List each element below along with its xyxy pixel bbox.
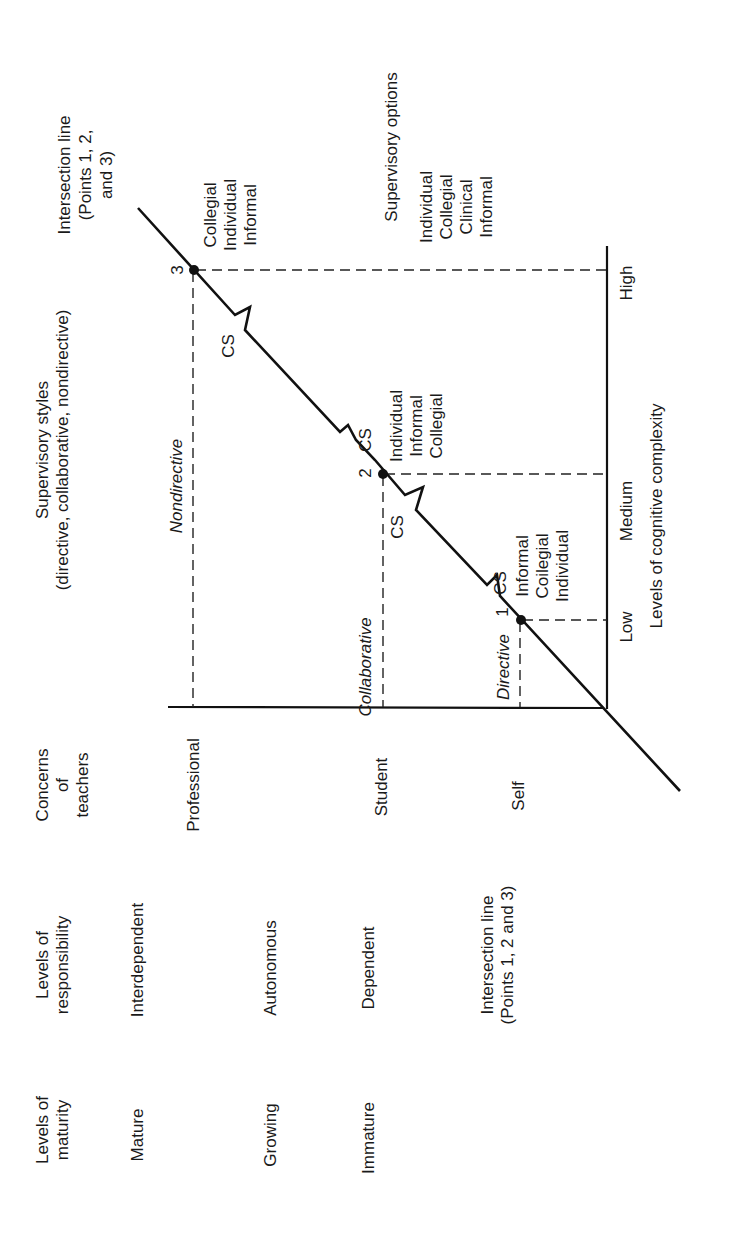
row-immature-responsibility: Dependent (359, 926, 378, 1009)
header-maturity-line2: maturity (53, 1099, 72, 1160)
intersection-top-line2: (Points 1, 2, (76, 130, 95, 221)
point-1-option-3: Individual (553, 530, 572, 602)
intersection-bottom-line1: Intersection line (478, 895, 497, 1014)
intersection-bottom-line2: (Points 1, 2 and 3) (498, 886, 517, 1025)
point-2-option-2: Informal (407, 395, 426, 456)
row-mature-responsibility: Interdependent (128, 903, 147, 1018)
point-2-option-1: Individual (387, 390, 406, 462)
header-concerns-line3: teachers (73, 752, 92, 817)
row-growing-maturity: Growing (261, 1103, 280, 1166)
point-3-label: 3 (168, 265, 187, 274)
option-individual: Individual (417, 171, 436, 243)
header-styles-line1: Supervisory styles (33, 381, 52, 519)
header-concerns-line2: of (53, 778, 72, 792)
row-growing-responsibility: Autonomous (261, 920, 280, 1015)
point-2-marker (378, 469, 388, 479)
row-growing-concern: Student (372, 757, 391, 816)
complexity-low: Low (617, 611, 636, 643)
cs-label-point2-above: CS (356, 428, 375, 452)
point-3-option-1: Collegial (201, 182, 220, 247)
point-1-label: 1 (493, 607, 512, 616)
header-responsibility-line2: responsibility (53, 915, 72, 1014)
row-immature-maturity: Immature (359, 1102, 378, 1174)
point-2-option-3: Collegial (427, 393, 446, 458)
header-responsibility-line1: Levels of (33, 931, 52, 999)
supervision-diagram: Levels of maturity Levels of responsibil… (0, 0, 729, 1257)
intersection-line (138, 208, 680, 791)
header-concerns-line1: Concerns (33, 749, 52, 822)
option-collegial: Collegial (437, 174, 456, 239)
style-collaborative: Collaborative (356, 617, 375, 716)
concerns-axis (168, 707, 604, 708)
style-directive: Directive (494, 634, 513, 700)
cs-label-point1: CS (491, 571, 510, 595)
option-informal: Informal (477, 176, 496, 237)
style-nondirective: Nondirective (167, 439, 186, 534)
point-1-option-1: Informal (513, 535, 532, 596)
row-mature-concern: Professional (184, 738, 203, 832)
complexity-high: High (617, 266, 636, 301)
cs-label-point2-below: CS (388, 515, 407, 539)
complexity-medium: Medium (617, 481, 636, 541)
intersection-top-line1: Intersection line (55, 115, 74, 234)
point-2-label: 2 (356, 468, 375, 477)
header-maturity-line1: Levels of (33, 1096, 52, 1164)
point-1-marker (516, 615, 526, 625)
intersection-top-line3: and 3) (97, 151, 116, 199)
header-supervisory-options: Supervisory options (382, 72, 401, 221)
option-clinical: Clinical (457, 180, 476, 235)
point-3-option-3: Informal (241, 184, 260, 245)
cs-label-upper: CS (219, 334, 238, 358)
header-styles-line2: (directive, collaborative, nondirective) (53, 310, 72, 591)
row-immature-concern: Self (509, 781, 528, 811)
point-3-option-2: Individual (221, 179, 240, 251)
row-mature-maturity: Mature (128, 1109, 147, 1162)
point-1-option-2: Coilegial (533, 533, 552, 598)
complexity-axis-title: Levels of cognitive complexity (647, 403, 666, 628)
point-3-marker (189, 265, 199, 275)
